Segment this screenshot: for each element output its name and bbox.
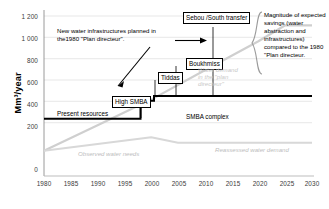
label-present-resources: Present resources [57, 110, 108, 117]
label-smba-complex: SMBA complex [186, 113, 229, 120]
label-observed-water-needs: Observed water needs [78, 150, 139, 158]
callout-sebou-south-transfer[interactable]: Sebou /South transfer [183, 12, 250, 24]
label-water-demand-plan-line3: directeur" [198, 80, 224, 88]
plan-directeur-note-line1: New water infrastructures planned in [57, 27, 156, 35]
water-resources-chart: Mm³/year 1 200 1 000 800 600 400 200 0 1… [0, 0, 329, 209]
plan-directeur-note-line2: the1980 "Plan directeur". [57, 35, 124, 43]
magnitude-savings-note: Magnitude of expected savings (water abs… [264, 11, 326, 59]
callout-high-smba[interactable]: High SMBA [112, 96, 151, 108]
annotation-arrow-sebou [175, 38, 207, 44]
annotation-arrow-plan-note [118, 47, 150, 88]
label-reassessed-water-demand: Reassessed water demand [215, 146, 289, 154]
callout-tiddas[interactable]: Tiddas [158, 72, 183, 84]
